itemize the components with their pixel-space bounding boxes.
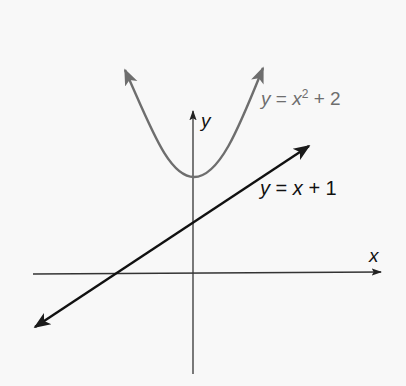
x-axis bbox=[33, 272, 381, 274]
y-axis-label: y bbox=[201, 111, 211, 130]
line-curve bbox=[35, 146, 309, 327]
parabola-eq-lhs: y bbox=[261, 88, 271, 109]
parabola-curve bbox=[125, 68, 263, 177]
line-eq-var: x bbox=[293, 177, 303, 199]
parabola-eq-rest: + 2 bbox=[314, 88, 341, 109]
line-equation-label: y = x + 1 bbox=[260, 178, 337, 198]
x-axis-label: x bbox=[369, 246, 379, 265]
line-eq-rest: + 1 bbox=[308, 177, 336, 199]
line-eq-equals: = bbox=[276, 177, 288, 199]
parabola-eq-equals: = bbox=[276, 88, 287, 109]
parabola-eq-exponent: 2 bbox=[302, 87, 309, 101]
line-eq-lhs: y bbox=[260, 177, 270, 199]
parabola-eq-var: x bbox=[292, 88, 302, 109]
graph-canvas bbox=[0, 0, 406, 386]
parabola-equation-label: y = x2 + 2 bbox=[261, 88, 341, 108]
